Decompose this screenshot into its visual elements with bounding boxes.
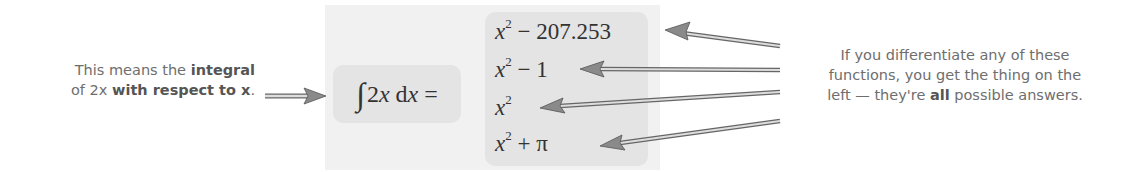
note-line: left — they're all possible answers. bbox=[790, 85, 1120, 105]
arrow-left-icon-1 bbox=[665, 22, 780, 46]
arrow-left-icon-4 bbox=[600, 121, 780, 150]
arrow-left-icon-3 bbox=[540, 92, 780, 113]
arrow-left-icon-2 bbox=[580, 61, 780, 77]
right-note: If you differentiate any of these functi… bbox=[790, 45, 1120, 105]
note-line: functions, you get the thing on the bbox=[790, 65, 1120, 85]
note-line: If you differentiate any of these bbox=[790, 45, 1120, 65]
arrow-right-icon bbox=[265, 88, 326, 104]
